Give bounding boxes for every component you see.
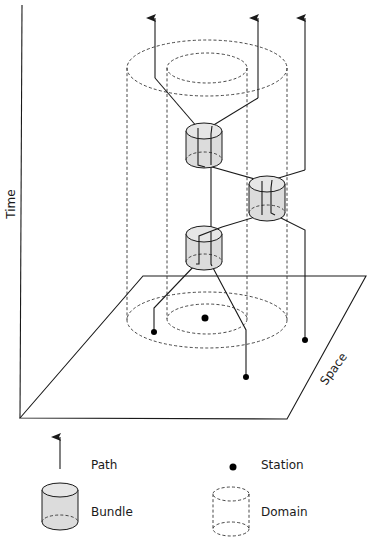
- inner-domain: [167, 53, 247, 334]
- bundle-cylinder-icon: [42, 483, 78, 530]
- station-left: [151, 329, 157, 335]
- space-plane: [20, 276, 366, 419]
- legend-bundle: Bundle: [42, 483, 133, 530]
- legend-bundle-label: Bundle: [91, 505, 133, 519]
- bundle-2: [249, 176, 285, 221]
- domain-cylinder-icon: [213, 487, 249, 536]
- bundle-1: [186, 123, 222, 168]
- legend-path: Path: [60, 437, 117, 472]
- station-dot-icon: [230, 464, 237, 471]
- legend-domain-label: Domain: [261, 505, 308, 519]
- time-axis: [20, 5, 22, 418]
- space-time-diagram: Time Space: [0, 0, 369, 541]
- legend-station-label: Station: [261, 458, 304, 472]
- legend-station: Station: [230, 458, 304, 472]
- legend: Path Station Bundle Domain: [42, 437, 308, 536]
- bundle-3: [186, 226, 222, 270]
- station-bottom: [243, 374, 249, 380]
- station-right: [302, 337, 308, 343]
- station-center: [202, 315, 209, 322]
- legend-domain: Domain: [213, 487, 308, 536]
- time-axis-label: Time: [4, 189, 18, 219]
- legend-path-label: Path: [91, 458, 117, 472]
